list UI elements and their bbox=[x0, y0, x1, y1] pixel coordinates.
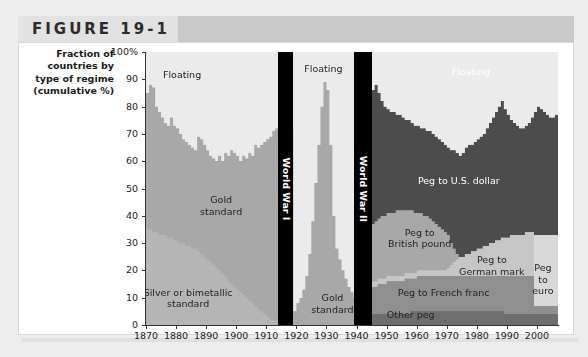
figure-title: FIGURE 19-1 bbox=[32, 20, 170, 38]
y-tick-label: 20 bbox=[104, 264, 138, 275]
war-band: World War II bbox=[354, 52, 372, 325]
war-band: World War I bbox=[278, 52, 293, 325]
stacked-area-canvas bbox=[146, 52, 558, 325]
y-axis-line bbox=[145, 52, 146, 325]
figure-header-band: FIGURE 19-1 bbox=[18, 16, 574, 42]
y-tick-label: 30 bbox=[104, 237, 138, 248]
y-tick-label: 80 bbox=[104, 101, 138, 112]
x-tick-label: 2000 bbox=[517, 330, 557, 341]
war-band-label: World War I bbox=[280, 157, 291, 220]
y-tick-label: 40 bbox=[104, 210, 138, 221]
y-tick-label: 0 bbox=[104, 319, 138, 330]
war-band-label: World War II bbox=[357, 155, 368, 221]
y-tick-label: 60 bbox=[104, 155, 138, 166]
y-tick-label: 90 bbox=[104, 73, 138, 84]
y-tick-label: 100% bbox=[94, 46, 138, 57]
y-tick-label: 70 bbox=[104, 128, 138, 139]
y-tick-label: 50 bbox=[104, 183, 138, 194]
chart-plot-area: World War IWorld War II FloatingGold sta… bbox=[146, 52, 558, 325]
y-tick-label: 10 bbox=[104, 292, 138, 303]
figure-root: FIGURE 19-1 Fraction of countries by typ… bbox=[0, 0, 588, 357]
x-axis-line bbox=[145, 325, 559, 326]
